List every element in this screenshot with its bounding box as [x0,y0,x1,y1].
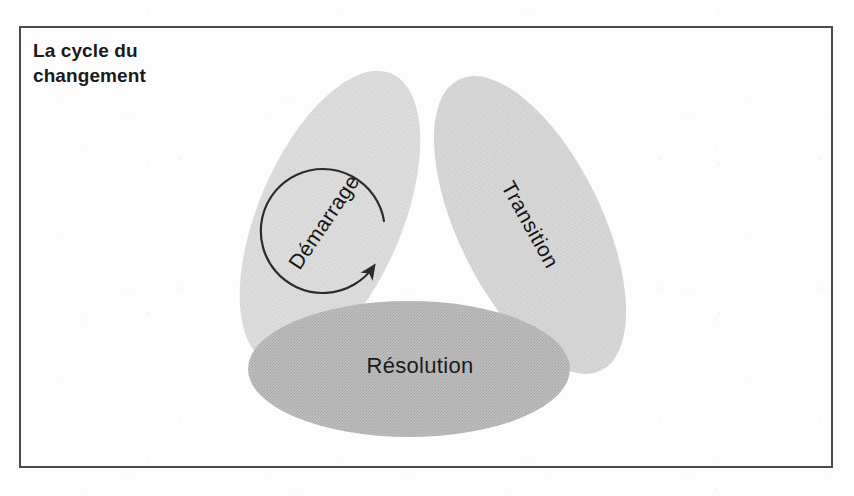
segment-resolution-label: Résolution [367,353,474,378]
figure-page: La cycle du changement [0,0,854,496]
cycle-diagram: Démarrage Transition Résolution [0,0,854,496]
segment-resolution[interactable]: Résolution [248,301,570,437]
